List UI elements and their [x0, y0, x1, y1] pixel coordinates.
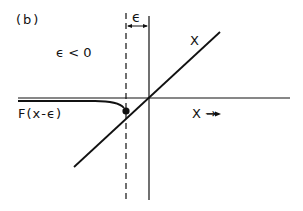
curve-label: F(x-ϵ) — [18, 107, 62, 120]
panel-label: (b) — [16, 13, 40, 26]
diagonal-label: X — [190, 34, 199, 47]
diagonal-line-x — [74, 32, 220, 167]
epsilon-label: ϵ — [132, 10, 141, 24]
axis-label: X → — [192, 107, 216, 120]
curve-endpoint-dot — [122, 107, 129, 114]
arrowhead-right — [143, 24, 148, 28]
figure-panel: (b) ϵ ϵ < 0 X X → F(x-ϵ) — [0, 0, 303, 211]
condition-label: ϵ < 0 — [56, 46, 91, 59]
